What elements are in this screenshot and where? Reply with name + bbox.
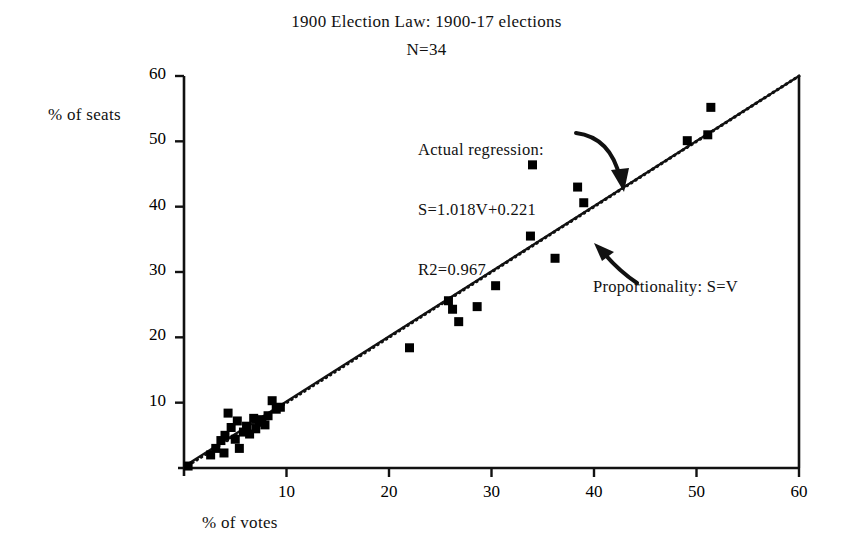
annotation-arrows bbox=[576, 133, 637, 283]
x-axis-label: % of votes bbox=[202, 513, 278, 533]
data-point-marker bbox=[405, 343, 414, 352]
chart-subtitle: N=34 bbox=[0, 40, 853, 60]
x-tick-label: 50 bbox=[683, 482, 711, 502]
y-tick-label: 20 bbox=[126, 325, 166, 345]
data-point-marker bbox=[264, 411, 273, 420]
x-tick-label: 40 bbox=[580, 482, 608, 502]
x-tick-label: 10 bbox=[273, 482, 301, 502]
regression-annotation-line-1: Actual regression: bbox=[418, 140, 544, 160]
y-tick-label: 40 bbox=[126, 195, 166, 215]
data-point-marker bbox=[224, 409, 233, 418]
x-tick-label: 20 bbox=[375, 482, 403, 502]
y-tick-label: 10 bbox=[126, 391, 166, 411]
data-point-marker bbox=[268, 396, 277, 405]
data-point-marker bbox=[184, 462, 193, 471]
data-point-marker bbox=[579, 198, 588, 207]
data-point-marker bbox=[235, 444, 244, 453]
data-point-marker bbox=[231, 435, 240, 444]
y-axis-label: % of seats bbox=[48, 105, 121, 125]
regression-annotation-line-2: S=1.018V+0.221 bbox=[418, 200, 544, 220]
data-point-marker bbox=[211, 444, 220, 453]
data-point-marker bbox=[242, 422, 251, 431]
chart-title: 1900 Election Law: 1900-17 elections bbox=[0, 12, 853, 32]
scatter-plot-figure: 1900 Election Law: 1900-17 elections N=3… bbox=[0, 0, 853, 558]
regression-annotation: Actual regression: S=1.018V+0.221 R2=0.9… bbox=[418, 100, 544, 320]
proportionality-annotation: Proportionality: S=V bbox=[593, 277, 738, 297]
x-tick-label: 60 bbox=[785, 482, 813, 502]
data-point-marker bbox=[233, 416, 242, 425]
data-point-marker bbox=[276, 403, 285, 412]
data-point-marker bbox=[260, 420, 269, 429]
y-tick-label: 50 bbox=[126, 129, 166, 149]
regression-annotation-line-3: R2=0.967 bbox=[418, 260, 544, 280]
data-point-marker bbox=[703, 130, 712, 139]
data-point-marker bbox=[221, 431, 230, 440]
y-tick-label: 30 bbox=[126, 260, 166, 280]
data-point-marker bbox=[683, 136, 692, 145]
data-point-marker bbox=[551, 254, 560, 263]
y-tick-label: 60 bbox=[126, 64, 166, 84]
data-point-marker bbox=[219, 448, 228, 457]
data-point-marker bbox=[573, 183, 582, 192]
data-point-marker bbox=[706, 103, 715, 112]
x-tick-label: 30 bbox=[478, 482, 506, 502]
